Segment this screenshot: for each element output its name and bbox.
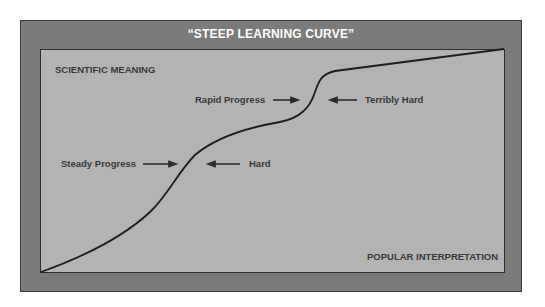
arrow-steady: [143, 162, 176, 167]
arrow-hard: [208, 162, 240, 167]
arrow-rapid: [273, 98, 298, 103]
terribly-hard-label: Terribly Hard: [365, 94, 423, 105]
scientific-meaning-label: SCIENTIFIC MEANING: [55, 64, 155, 75]
arrow-terribly: [330, 98, 357, 103]
rapid-progress-label: Rapid Progress: [195, 94, 265, 105]
steady-progress-label: Steady Progress: [61, 158, 136, 169]
popular-interpretation-label: POPULAR INTERPRETATION: [367, 251, 498, 262]
hard-label: Hard: [249, 158, 271, 169]
